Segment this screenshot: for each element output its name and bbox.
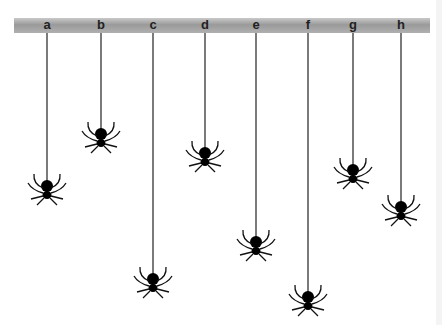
spider-icon-f [289,33,327,316]
spider-icon-g [334,33,372,189]
spider-icon-b [82,33,120,153]
spider-scene [0,0,442,325]
spider-icon-c [134,33,172,298]
spider-icon-a [28,33,66,205]
spider-icon-e [237,33,275,261]
spider-icon-h [382,33,420,226]
spider-icon-d [186,33,224,172]
